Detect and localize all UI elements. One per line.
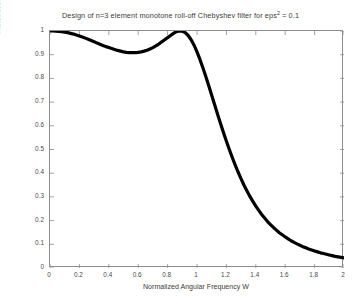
x-tick-label: 1 [182,271,210,278]
y-tick-label: 0.5 [18,145,44,152]
x-tick-label: 1.8 [300,271,328,278]
y-tick-label: 0.3 [18,192,44,199]
chart-title: Design of n=3 element monotone roll-off … [0,8,361,21]
x-tick-label: 0 [35,271,63,278]
y-tick-label: 0.7 [18,97,44,104]
figure-canvas: Design of n=3 element monotone roll-off … [0,0,361,305]
x-tick-label: 0.2 [64,271,92,278]
x-axis-label: Normalized Angular Frequency W [49,283,343,291]
data-series-line [50,31,344,258]
x-tick-label: 1.6 [270,271,298,278]
y-tick-label: 0 [18,263,44,270]
plot-area [49,30,343,267]
y-tick-label: 0.9 [18,50,44,57]
x-tick-label: 0.8 [153,271,181,278]
x-tick-label: 2 [329,271,357,278]
y-tick-label: 0.4 [18,168,44,175]
y-tick-label: 0.6 [18,121,44,128]
y-axis-label: Transducer Power Gain [0,0,2,78]
axis-ticks [50,31,344,268]
x-tick-label: 0.6 [123,271,151,278]
plot-svg [50,31,344,268]
chart-title-prefix: Design of n=3 element monotone roll-off … [62,11,277,20]
x-tick-label: 0.4 [94,271,122,278]
y-tick-label: 0.2 [18,216,44,223]
y-tick-label: 0.1 [18,239,44,246]
x-tick-label: 1.4 [241,271,269,278]
x-tick-label: 1.2 [211,271,239,278]
chart-title-suffix: = 0.1 [280,11,299,20]
y-tick-label: 1 [18,26,44,33]
y-tick-label: 0.8 [18,73,44,80]
y-axis-label-wrapper: Transducer Power Gain [0,0,6,78]
